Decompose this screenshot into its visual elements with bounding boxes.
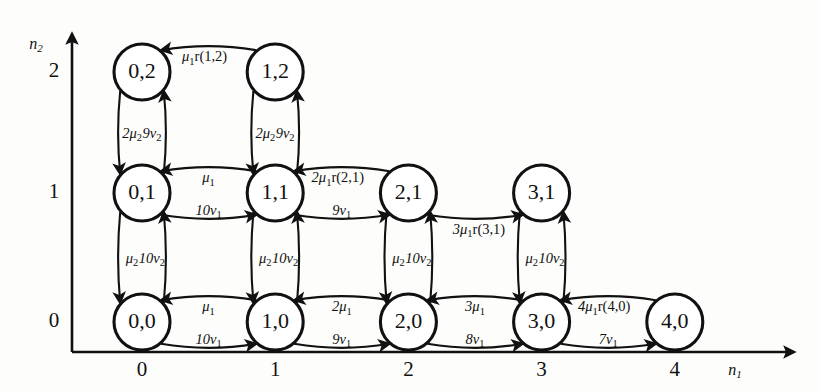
y-axis-tick-0: 0: [49, 308, 60, 332]
x-axis-tick-0: 0: [137, 357, 148, 381]
state-node-1-1[interactable]: 1,1: [247, 165, 303, 221]
edge-1-2-to-1-1: [251, 91, 253, 174]
state-node-1-0[interactable]: 1,0: [247, 294, 303, 350]
edge-label-10v2: 10v2: [405, 250, 431, 269]
edge-1-1-to-1-0: [251, 212, 253, 303]
edge-label-10v1: 10v1: [196, 202, 222, 221]
edge-2-1-to-2-0: [385, 212, 387, 303]
y-axis-tick-2: 2: [49, 58, 60, 82]
edge-label-2mu1: 2μ1: [332, 298, 352, 317]
edge-label-9v1: 9v1: [332, 202, 351, 221]
node-label: 2,1: [395, 179, 423, 204]
node-label: 1,2: [261, 58, 289, 83]
node-label: 2,0: [395, 308, 423, 333]
edge-label-2mu2: 2μ2: [122, 125, 142, 144]
state-node-0-1[interactable]: 0,1: [114, 165, 170, 221]
x-axis-tick-3: 3: [536, 357, 547, 381]
edge-label-7v1: 7v1: [599, 331, 618, 350]
edge-label-8v1: 8v1: [466, 331, 485, 350]
edge-label-4mu1r(4,0): 4μ1r(4,0): [578, 298, 631, 317]
x-axis-tick-2: 2: [403, 357, 414, 381]
state-transition-diagram: 01201234n2n1 10v1μ19v12μ18v13μ17v14μ1r(4…: [0, 0, 821, 392]
state-node-2-1[interactable]: 2,1: [380, 165, 436, 221]
edge-label-mu2: μ2: [125, 250, 139, 269]
node-label: 4,0: [661, 308, 689, 333]
state-node-3-0[interactable]: 3,0: [514, 294, 570, 350]
state-node-3-1[interactable]: 3,1: [514, 165, 570, 221]
edge-label-mu2: μ2: [524, 250, 538, 269]
edge-3-1-to-3-0: [518, 212, 520, 303]
node-label: 3,1: [528, 179, 556, 204]
node-label: 0,2: [128, 58, 156, 83]
y-axis-label: n2: [29, 35, 43, 54]
edge-label-mu1r(1,2): μ1r(1,2): [181, 48, 227, 67]
edge-label-3mu1r(3,1): 3μ1r(3,1): [452, 221, 506, 240]
edge-label-10v2: 10v2: [139, 250, 165, 269]
node-label: 1,0: [261, 308, 289, 333]
edge-label-mu1: μ1: [201, 298, 215, 317]
edge-label-10v2: 10v2: [272, 250, 298, 269]
node-label: 3,0: [528, 308, 556, 333]
state-node-1-2[interactable]: 1,2: [247, 44, 303, 100]
diagram-canvas: 01201234n2n1 10v1μ19v12μ18v13μ17v14μ1r(4…: [0, 0, 821, 392]
edge-0-1-to-0-2: [164, 91, 166, 174]
edge-label-10v2: 10v2: [538, 250, 564, 269]
edge-0-2-to-0-1: [118, 91, 120, 174]
node-label: 0,0: [128, 308, 156, 333]
edge-label-9v2: 9v2: [142, 125, 161, 144]
edge-label-2mu1r(2,1): 2μ1r(2,1): [312, 169, 365, 188]
x-axis-label: n1: [728, 361, 742, 380]
edge-label-2mu2: 2μ2: [255, 125, 275, 144]
edge-1-1-to-1-2: [297, 91, 299, 174]
state-node-0-0[interactable]: 0,0: [114, 294, 170, 350]
x-axis-tick-4: 4: [670, 357, 681, 381]
y-axis-tick-1: 1: [49, 179, 60, 203]
edge-label-mu2: μ2: [258, 250, 272, 269]
edge-label-mu1: μ1: [201, 169, 215, 188]
edge-0-1-to-0-0: [118, 212, 120, 303]
edge-label-10v1: 10v1: [196, 331, 222, 350]
state-node-0-2[interactable]: 0,2: [114, 44, 170, 100]
state-node-4-0[interactable]: 4,0: [647, 294, 703, 350]
edge-label-mu2: μ2: [391, 250, 405, 269]
edge-label-3mu1: 3μ1: [464, 298, 485, 317]
edge-label-9v1: 9v1: [332, 331, 351, 350]
state-node-2-0[interactable]: 2,0: [380, 294, 436, 350]
edge-label-9v2: 9v2: [276, 125, 295, 144]
node-label: 0,1: [128, 179, 156, 204]
node-label: 1,1: [261, 179, 289, 204]
x-axis-tick-1: 1: [270, 357, 281, 381]
edge-2-1-to-3-1: [427, 215, 522, 219]
